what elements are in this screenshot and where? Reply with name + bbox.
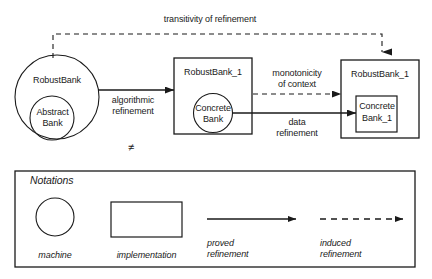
algorithmic-refinement-label-line2: refinement [100,106,166,117]
left-machine-inner-label-line2: Bank [25,118,80,129]
notation-label-machine: machine [25,250,85,261]
right-implementation-inner-label-line2: Bank_1 [354,113,400,124]
figure-canvas: transitivity of refinement RobustBank Ab… [0,0,432,279]
notation-label-implementation: implementation [111,250,182,261]
notation-label-proved-line2: refinement [207,249,269,260]
left-machine-inner-label-line1: Abstract [25,107,80,118]
notation-glyph-circle [36,198,74,236]
notation-label-induced-line2: refinement [320,249,382,260]
notation-label-induced-line1: induced [320,238,382,249]
data-refinement-label-line2: refinement [258,128,336,139]
right-implementation-outer-label: RobustBank_1 [343,69,417,80]
middle-implementation-outer-label: RobustBank_1 [176,67,250,78]
middle-implementation-inner-label-line2: Bank [188,114,238,125]
notation-label-proved-line1: proved [207,238,269,249]
middle-implementation-inner-label-line1: Concrete [188,103,238,114]
monotonicity-label-line1: monotonicity [258,68,336,79]
data-refinement-label-line1: data [258,117,336,128]
transitivity-label: transitivity of refinement [140,14,280,25]
right-implementation-inner-label-line1: Concrete [354,101,400,112]
transitivity-edge [53,34,382,58]
left-machine-outer-label: RobustBank [17,75,97,86]
not-equal-symbol: ≠ [121,142,141,153]
notation-glyph-rectangle [111,202,182,237]
algorithmic-refinement-label-line1: algorithmic [100,95,166,106]
monotonicity-label-line2: of context [258,79,336,90]
notations-title: Notations [30,175,100,186]
